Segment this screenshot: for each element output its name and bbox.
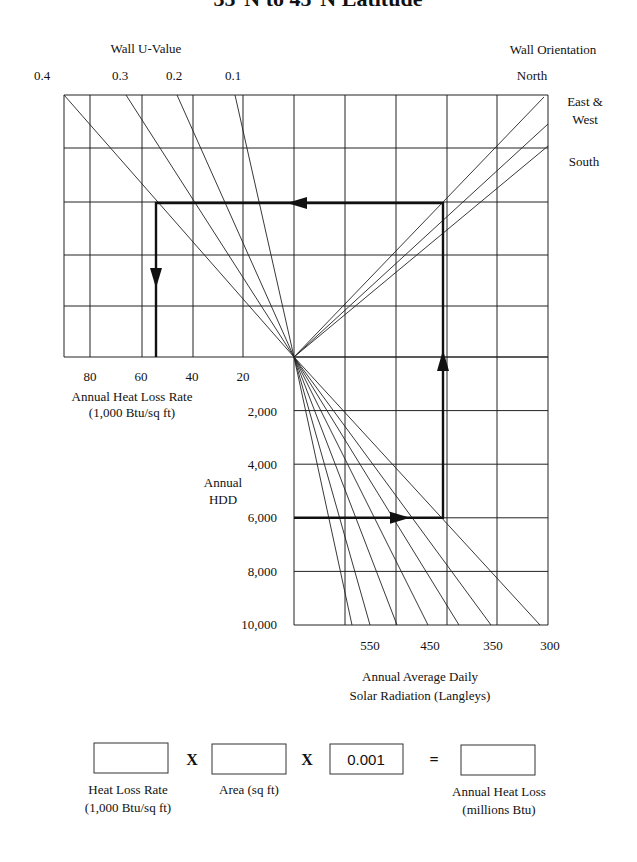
orientation-label-north: North	[517, 68, 548, 83]
heat-loss-rate-units: (1,000 Btu/sq ft)	[85, 800, 171, 815]
orientation-label-east: East &	[567, 94, 603, 109]
example-path-line	[156, 203, 443, 518]
hdd-axis-label-2: HDD	[209, 492, 237, 507]
arrow-right-icon	[390, 512, 410, 524]
arrow-down-icon	[150, 268, 162, 288]
radiation-line	[294, 357, 428, 625]
chart-title: 35°N to 45°N Latitude	[214, 0, 423, 11]
heat-loss-tick: 60	[135, 369, 148, 384]
annual-heat-loss-label: Annual Heat Loss	[452, 784, 546, 799]
heat-loss-tick: 40	[186, 369, 199, 384]
u-value-label: 0.3	[112, 68, 128, 83]
heat-loss-axis-units: (1,000 Btu/sq ft)	[89, 405, 175, 420]
radiation-axis-label: Annual Average Daily	[362, 669, 478, 684]
heat-loss-axis-label: Annual Heat Loss Rate	[72, 389, 193, 404]
fan-lines	[64, 95, 548, 625]
annual-heat-loss-box[interactable]	[461, 745, 535, 775]
hdd-tick: 8,000	[248, 564, 277, 579]
arrow-left-icon	[287, 197, 307, 209]
example-path	[150, 197, 449, 524]
u-value-label: 0.4	[34, 68, 51, 83]
u-value-line	[64, 95, 294, 357]
radiation-tick: 350	[483, 638, 503, 653]
radiation-tick: 300	[540, 638, 560, 653]
nomograph-chart: 35°N to 45°N Latitude Wall U-Value 0.4 0…	[0, 0, 637, 862]
radiation-tick: 550	[360, 638, 380, 653]
hdd-tick: 10,000	[241, 617, 277, 632]
radiation-line	[294, 357, 540, 625]
heat-loss-tick: 80	[84, 369, 97, 384]
hdd-axis-label: Annual	[204, 475, 243, 490]
radiation-line	[294, 357, 491, 625]
orientation-line	[294, 124, 548, 357]
radiation-tick: 450	[420, 638, 440, 653]
orientation-legend-title: Wall Orientation	[510, 42, 597, 57]
u-value-line	[126, 95, 294, 357]
area-label: Area (sq ft)	[219, 782, 279, 797]
heat-loss-rate-box[interactable]	[94, 743, 168, 773]
radiation-axis-label-2: Solar Radiation (Langleys)	[350, 688, 491, 703]
radiation-line	[294, 357, 370, 625]
orientation-line	[294, 146, 548, 357]
grid	[64, 95, 548, 625]
constant-value: 0.001	[347, 751, 385, 768]
area-box[interactable]	[212, 744, 286, 774]
equation: X X 0.001 = Heat Loss Rate (1,000 Btu/sq…	[85, 743, 546, 817]
equals-sign: =	[429, 751, 438, 768]
heat-loss-rate-label: Heat Loss Rate	[88, 782, 168, 797]
orientation-label-west: West	[572, 112, 598, 127]
radiation-line	[294, 357, 459, 625]
u-value-label: 0.1	[225, 68, 241, 83]
hdd-tick: 2,000	[248, 404, 277, 419]
multiply-sign: X	[301, 751, 313, 768]
u-value-line	[235, 95, 294, 357]
u-value-label: 0.2	[166, 68, 182, 83]
u-value-axis-label: Wall U-Value	[111, 41, 182, 56]
hdd-tick: 4,000	[248, 457, 277, 472]
orientation-line	[294, 97, 544, 357]
annual-heat-loss-units: (millions Btu)	[462, 802, 535, 817]
u-value-line	[177, 95, 294, 357]
hdd-tick: 6,000	[248, 510, 277, 525]
orientation-label-south: South	[569, 154, 600, 169]
multiply-sign: X	[186, 751, 198, 768]
heat-loss-tick: 20	[237, 369, 250, 384]
